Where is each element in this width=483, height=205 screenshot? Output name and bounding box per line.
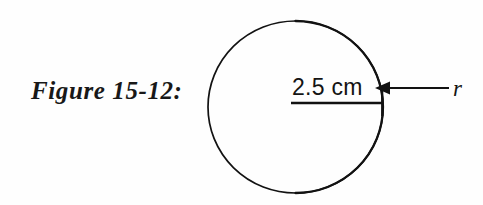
dimension-label: 2.5 cm	[292, 76, 363, 99]
figure-drawing	[0, 0, 483, 205]
figure-page: Figure 15-12: 2.5 cm r	[0, 0, 483, 205]
radius-symbol-label: r	[453, 77, 462, 100]
circle-right-limb-icon	[296, 21, 383, 193]
